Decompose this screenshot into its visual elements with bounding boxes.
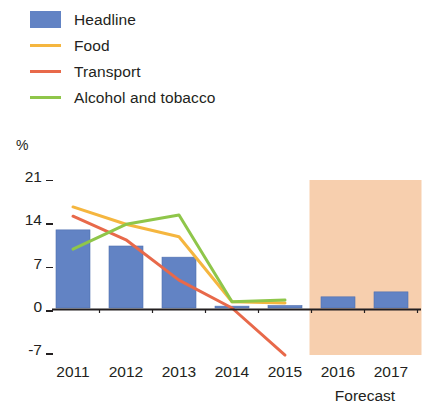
x-tick-label-2012: 2012 — [100, 363, 152, 381]
forecast-caption: Forecast — [310, 387, 420, 405]
x-tick-label-2014: 2014 — [206, 363, 258, 381]
bar-2015 — [268, 306, 302, 308]
bar-2016 — [321, 297, 355, 308]
x-tick-label-2017: 2017 — [365, 363, 417, 381]
y-tick-mark — [46, 310, 53, 312]
y-tick-label-21: 21 — [8, 168, 42, 186]
y-tick-mark — [46, 223, 53, 225]
y-tick-label-minus-7: -7 — [8, 341, 42, 359]
y-tick-label-14: 14 — [8, 211, 42, 229]
y-tick-label-7: 7 — [8, 255, 42, 273]
y-tick-mark — [46, 180, 53, 182]
y-tick-mark — [46, 267, 53, 269]
x-tick-label-2015: 2015 — [259, 363, 311, 381]
y-tick-label-0: 0 — [8, 298, 42, 316]
bar-2017 — [374, 292, 408, 308]
x-tick-label-2013: 2013 — [153, 363, 205, 381]
inflation-chart: Headline Food Transport Alcohol and toba… — [0, 0, 426, 411]
x-tick-label-2016: 2016 — [312, 363, 364, 381]
x-tick-label-2011: 2011 — [47, 363, 99, 381]
bar-2013 — [162, 257, 196, 308]
y-tick-mark — [46, 353, 53, 355]
bar-2012 — [109, 246, 143, 308]
forecast-shaded-band — [310, 180, 422, 355]
bar-2011 — [56, 230, 90, 308]
plot-area — [0, 0, 426, 411]
